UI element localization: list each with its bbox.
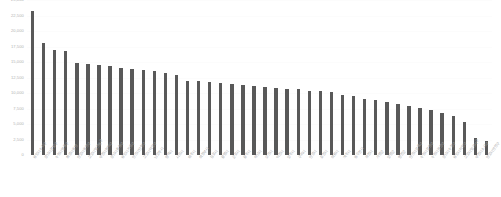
bar — [285, 89, 288, 155]
bar — [363, 99, 366, 155]
bar — [274, 88, 277, 155]
y-axis: 25,00022,50020,00017,50015,00012,50010,0… — [0, 0, 27, 155]
y-axis-tick-label: 22,500 — [11, 13, 24, 17]
bar — [263, 87, 266, 155]
bar — [241, 85, 244, 155]
y-axis-tick-label: 5,000 — [13, 122, 24, 126]
bar — [385, 102, 388, 155]
bar — [341, 95, 344, 155]
bar — [197, 81, 200, 155]
y-axis-tick-label: 7,500 — [13, 106, 24, 110]
bar — [463, 122, 466, 155]
y-axis-tick-label: 10,000 — [11, 91, 24, 95]
y-axis-tick-label: 0 — [22, 153, 24, 157]
y-axis-tick-label: 17,500 — [11, 44, 24, 48]
bar — [252, 86, 255, 155]
bar — [219, 83, 222, 155]
bar — [53, 50, 56, 155]
bar — [186, 81, 189, 155]
plot-area — [27, 0, 492, 155]
bar — [175, 75, 178, 155]
bar — [396, 104, 399, 155]
y-axis-tick-label: 12,500 — [11, 75, 24, 79]
bar — [308, 91, 311, 155]
y-axis-tick-label: 15,000 — [11, 60, 24, 64]
bar — [164, 73, 167, 155]
bar — [42, 43, 45, 155]
bar — [330, 92, 333, 155]
y-axis-tick-label: 25,000 — [11, 0, 24, 2]
bar — [208, 82, 211, 155]
bar — [407, 106, 410, 155]
bar — [31, 11, 34, 155]
bar — [352, 96, 355, 155]
bar — [297, 89, 300, 155]
y-axis-tick-label: 2,500 — [13, 137, 24, 141]
x-axis: 용인시 수지구성남시 분당구수원시 영통구화성시 동탄안양시 동안구고양시 일산… — [27, 155, 492, 197]
bar — [230, 84, 233, 155]
bar — [64, 51, 67, 155]
y-axis-tick-label: 20,000 — [11, 29, 24, 33]
bar — [75, 63, 78, 155]
bar — [374, 100, 377, 155]
bar — [319, 91, 322, 155]
